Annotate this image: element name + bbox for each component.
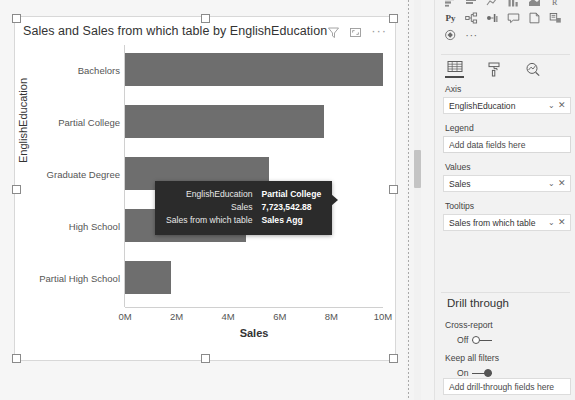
fields-tab[interactable] [445,58,464,78]
well-tooltips[interactable]: Sales from which table ⌄ ✕ [443,214,571,231]
bar-partial-college[interactable] [125,105,324,138]
bar-partial-high-school[interactable] [125,261,171,294]
visualization-type-gallery[interactable]: R Py [443,0,571,45]
x-tick-label: 0M [118,311,131,322]
canvas-scrollbar-track[interactable] [414,0,421,400]
well-label-tooltips: Tooltips [445,201,571,211]
resize-handle-bottom-center[interactable] [201,354,210,363]
field-wells[interactable]: Axis EnglishEducation ⌄ ✕ Legend Add dat… [443,84,571,240]
remove-field-icon[interactable]: ✕ [558,101,566,110]
cross-report-switch[interactable] [472,336,492,345]
svg-text:R: R [552,0,558,7]
chart-tooltip: EnglishEducation Partial College Sales 7… [155,181,332,235]
tooltip-row: Sales from which table Sales Agg [166,214,321,227]
report-canvas[interactable]: Sales and Sales from which table by Engl… [0,0,406,400]
tooltip-row: Sales 7,723,542.88 [166,201,321,214]
viz-gallery-row-more[interactable]: ··· [443,28,571,42]
python-visual-icon[interactable]: Py [443,11,458,25]
resize-handle-middle-right[interactable] [389,185,398,194]
plot-area: EnglishEducation Bachelors Partial Colle… [15,45,395,360]
keep-all-filters-state: On [457,368,468,378]
r-script-visual-icon[interactable]: R [548,0,563,8]
focus-mode-icon[interactable] [349,25,362,38]
line-chart-icon[interactable] [485,0,500,8]
format-tab[interactable] [484,61,503,78]
qna-visual-icon[interactable] [506,11,521,25]
resize-handle-bottom-right[interactable] [389,354,398,363]
tooltip-key: EnglishEducation [166,188,261,201]
well-label-axis: Axis [445,84,571,94]
canvas-scrollbar-thumb[interactable] [414,150,421,188]
tooltip-value: Partial College [261,188,321,201]
tooltip-key: Sales [166,201,261,214]
switch-knob[interactable] [472,336,480,344]
x-axis-line [125,307,383,308]
drill-through-title: Drill through [447,297,509,309]
y-axis-title: EnglishEducation [17,149,29,163]
tooltip-row: EnglishEducation Partial College [166,188,321,201]
visual-header-icons: ··· [327,25,387,38]
keep-all-filters-toggle[interactable]: On [457,368,492,378]
pane-tabs[interactable] [445,58,569,78]
y-axis-tick-labels: Bachelors Partial College Graduate Degre… [35,45,123,307]
remove-field-icon[interactable]: ✕ [558,179,566,188]
chevron-down-icon[interactable]: ⌄ [548,219,555,227]
y-tick-label: Graduate Degree [47,169,120,180]
x-tick-label: 4M [222,311,235,322]
chevron-down-icon[interactable]: ⌄ [548,180,555,188]
y-tick-label: High School [69,221,120,232]
well-axis-actions[interactable]: ⌄ ✕ [548,101,566,110]
y-tick-label: Partial College [58,117,120,128]
x-tick-label: 8M [325,311,338,322]
visualizations-pane[interactable]: R Py [434,0,575,400]
x-tick-label: 2M [170,311,183,322]
y-tick-label: Partial High School [39,273,120,284]
switch-knob[interactable] [484,369,492,377]
cross-report-toggle[interactable]: Off [457,335,492,345]
well-values[interactable]: Sales ⌄ ✕ [443,175,571,192]
keep-all-filters-switch[interactable] [472,369,492,378]
well-axis[interactable]: EnglishEducation ⌄ ✕ [443,97,571,114]
well-legend[interactable]: Add data fields here [443,136,571,153]
pane-divider [441,54,570,55]
tooltip-key: Sales from which table [166,214,261,227]
tooltip-value: 7,723,542.88 [261,201,321,214]
well-label-legend: Legend [445,123,571,133]
clustered-bar-chart-icon[interactable] [464,0,479,8]
x-axis-title: Sales [125,327,383,339]
chevron-down-icon[interactable]: ⌄ [548,102,555,110]
viz-gallery-row-top[interactable]: R [443,0,571,8]
column-chart-icon[interactable] [506,0,521,8]
well-values-actions[interactable]: ⌄ ✕ [548,179,566,188]
key-influencers-icon[interactable] [485,11,500,25]
drill-through-drop-zone[interactable]: Add drill-through fields here [443,378,571,395]
smart-narrative-icon[interactable] [548,11,563,25]
resize-handle-bottom-left[interactable] [12,354,21,363]
decomposition-tree-icon[interactable] [464,11,479,25]
bar-series [125,45,383,307]
well-legend-placeholder: Add data fields here [449,140,566,150]
viz-gallery-row-python[interactable]: Py [443,11,571,25]
more-visuals-icon[interactable]: ··· [464,28,479,42]
resize-handle-middle-left[interactable] [12,185,21,194]
power-apps-icon[interactable] [443,28,458,42]
remove-field-icon[interactable]: ✕ [558,218,566,227]
resize-handle-top-right[interactable] [389,14,398,23]
tooltip-arrow [331,194,338,206]
stacked-bar-chart-icon[interactable] [443,0,458,8]
area-chart-icon[interactable] [527,0,542,8]
more-options-icon[interactable]: ··· [371,28,387,34]
filter-icon[interactable] [327,25,340,38]
tooltip-table: EnglishEducation Partial College Sales 7… [166,188,321,227]
well-tooltips-actions[interactable]: ⌄ ✕ [548,218,566,227]
bar-chart-visual[interactable]: Sales and Sales from which table by Engl… [14,16,396,361]
tooltip-value: Sales Agg [261,214,321,227]
cross-report-label: Cross-report [445,320,493,330]
resize-handle-top-left[interactable] [12,14,21,23]
visual-title: Sales and Sales from which table by Engl… [23,24,327,38]
x-axis-tick-labels: 0M 2M 4M 6M 8M 10M [125,311,383,325]
paginated-report-icon[interactable] [527,11,542,25]
bar-bachelors[interactable] [125,53,383,86]
resize-handle-top-center[interactable] [201,14,210,23]
analytics-tab[interactable] [523,61,542,78]
